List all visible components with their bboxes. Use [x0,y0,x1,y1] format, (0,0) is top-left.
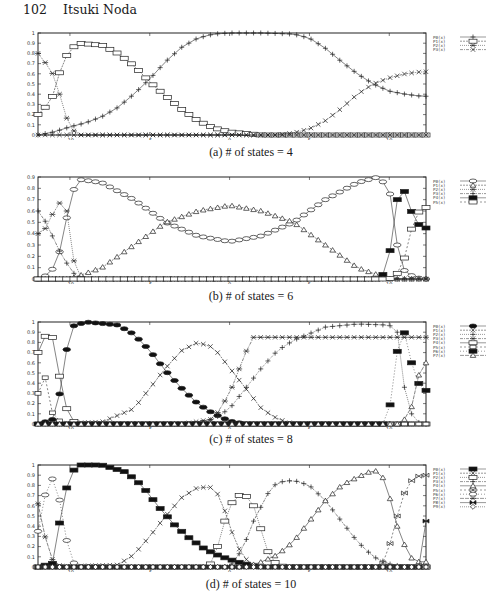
y-tick-label: 0.8 [27,50,35,56]
series-p0x [34,320,430,426]
y-tick-label: 0.3 [27,533,35,539]
caption-a: (a) # of states = 4 [0,145,502,160]
figure-panel-d: 00.10.20.30.40.50.60.70.80.91-10-50510P0… [0,460,502,572]
series-p5x [35,473,429,569]
series-p0x [34,463,430,569]
y-tick-label: 0.5 [27,219,35,225]
page-header: 102Itsuki Noda [23,2,137,17]
x-tick-label: 5 [308,281,311,284]
y-tick-label: 0.4 [27,91,35,97]
x-tick-label: 10 [386,426,392,429]
y-tick-label: 0.5 [27,81,35,87]
x-tick-label: -10 [66,281,74,284]
y-tick-label: 0.2 [27,400,35,406]
x-tick-label: 0 [228,569,231,572]
series-p2x [34,494,430,569]
caption-c: (c) # of states = 8 [0,432,502,447]
x-tick-label: 0 [228,281,231,284]
x-tick-label: 5 [308,426,311,429]
y-tick-label: 0.1 [27,554,35,560]
legend: P0(x)P1(x)P2(x)P3(x)P4(x)P5(x) [433,179,486,205]
y-tick-label: 0.9 [27,174,35,180]
series-p0x [34,176,430,281]
x-tick-label: -5 [147,281,152,284]
y-tick-label: 0.8 [27,339,35,345]
y-tick-label: 1 [32,30,35,36]
series-p6x [34,477,430,569]
x-tick-label: 0 [228,137,231,140]
figure-panel-b: 00.10.20.30.40.50.60.70.80.9-10-50510P0(… [0,172,502,284]
y-tick-label: 0.9 [27,40,35,46]
y-tick-label: 0.9 [27,472,35,478]
y-tick-label: 1 [32,462,35,468]
y-tick-label: 0.2 [27,253,35,259]
running-head: Itsuki Noda [63,2,137,17]
y-tick-label: 0.1 [27,411,35,417]
legend: P0(x)P1(x)P2(x)P3(x)P4(x)P5(x)P6(x)P7(x)… [433,467,486,510]
series-p4x [34,334,430,426]
legend-label: P7(x) [433,353,446,358]
caption-b: (b) # of states = 6 [0,289,502,304]
y-tick-label: 0.5 [27,370,35,376]
y-tick-label: 0.6 [27,503,35,509]
legend: P0(x)P1(x)P2(x)P3(x)P4(x)P5(x)P6(x)P7(x) [433,324,486,358]
y-tick-label: 0.4 [27,523,35,529]
y-tick-label: 0.3 [27,101,35,107]
x-tick-label: -5 [147,137,152,140]
y-tick-label: 0.7 [27,492,35,498]
legend: P0(x)P1(x)P2(x)P3(x) [433,35,486,53]
y-tick-label: 0.9 [27,329,35,335]
y-tick-label: 0.1 [27,122,35,128]
y-tick-label: 0 [32,132,35,138]
x-tick-label: 10 [386,137,392,140]
y-tick-label: 0.7 [27,60,35,66]
series-p3x [36,478,429,569]
x-tick-label: 5 [308,137,311,140]
plot-frame [38,177,426,279]
series-p9x [36,565,429,570]
y-tick-label: 0.5 [27,513,35,519]
series-p4x [35,469,429,569]
legend-label: P5(x) [433,200,446,205]
y-tick-label: 0.2 [27,543,35,549]
series-p5x [35,376,429,426]
y-tick-label: 0.3 [27,390,35,396]
page-number: 102 [23,2,63,17]
caption-d: (d) # of states = 10 [0,577,502,592]
y-tick-label: 0.6 [27,360,35,366]
x-tick-label: -5 [147,426,152,429]
series-p2x [35,51,429,137]
x-tick-label: -10 [66,137,74,140]
x-tick-label: 0 [228,426,231,429]
y-tick-label: 0.7 [27,196,35,202]
legend-label: P9(x) [433,504,446,509]
figure-panel-c: 00.10.20.30.40.50.60.70.80.91-10-50510P0… [0,317,502,429]
y-tick-label: 0.6 [27,208,35,214]
y-tick-label: 0.3 [27,242,35,248]
series-p3x [36,70,428,138]
y-tick-label: 0.4 [27,380,35,386]
y-tick-label: 0.1 [27,264,35,270]
series-p3x [35,335,429,426]
plot-frame [38,33,426,135]
series-p7x [35,360,429,426]
y-tick-label: 0.6 [27,71,35,77]
y-tick-label: 1 [32,319,35,325]
x-tick-label: 10 [386,569,392,572]
series-p1x [36,341,428,426]
figure-panel-a: 00.10.20.30.40.50.60.70.80.91-10-50510P0… [0,28,502,140]
y-tick-label: 0.8 [27,482,35,488]
y-tick-label: 0.4 [27,230,35,236]
x-tick-label: 10 [386,281,392,284]
legend-label: P3(x) [433,47,446,52]
series-p1x [36,485,428,569]
series-p6x [34,331,430,426]
y-tick-label: 0.8 [27,185,35,191]
